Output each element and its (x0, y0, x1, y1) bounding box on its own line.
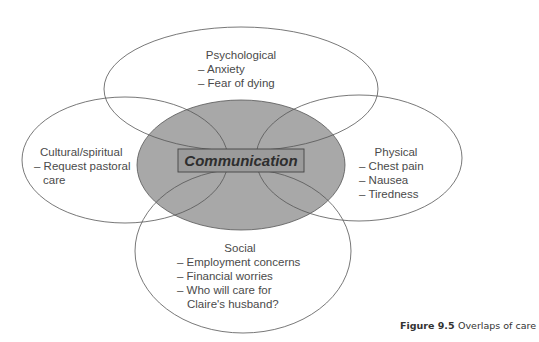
psychological-item: – Anxiety (198, 63, 245, 75)
figure-caption: Figure 9.5 Overlaps of care (400, 320, 536, 331)
physical-item: – Tiredness (359, 188, 419, 200)
figure-title: Overlaps of care (458, 320, 536, 331)
social-item: – Financial worries (177, 270, 273, 282)
social-item: – Employment concerns (177, 256, 301, 268)
cultural-title: Cultural/spiritual (40, 146, 122, 158)
social-text: Social – Employment concerns – Financial… (177, 242, 301, 310)
psychological-item: – Fear of dying (198, 77, 275, 89)
psychological-title: Psychological (206, 49, 276, 61)
cultural-item: – Request pastoral (34, 160, 131, 172)
social-item: Claire's husband? (187, 298, 279, 310)
overlaps-of-care-diagram: Communication Psychological – Anxiety – … (0, 0, 539, 342)
figure-number: Figure 9.5 (400, 320, 455, 331)
cultural-text: Cultural/spiritual – Request pastoral ca… (34, 146, 131, 186)
physical-item: – Chest pain (359, 160, 424, 172)
physical-item: – Nausea (359, 174, 409, 186)
physical-title: Physical (375, 146, 418, 158)
cultural-item: care (43, 174, 65, 186)
physical-text: Physical – Chest pain – Nausea – Tiredne… (359, 146, 424, 200)
communication-label: Communication (184, 152, 297, 169)
social-title: Social (224, 242, 255, 254)
social-item: – Who will care for (177, 284, 272, 296)
psychological-text: Psychological – Anxiety – Fear of dying (198, 49, 276, 89)
